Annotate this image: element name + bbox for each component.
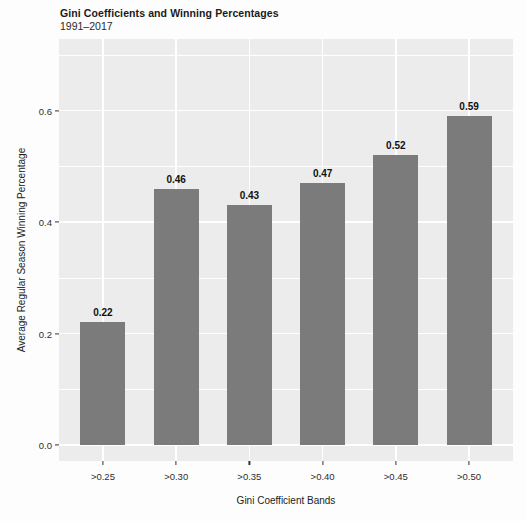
- y-axis-tick-mark: [55, 221, 59, 222]
- x-axis-tick-mark: [176, 461, 177, 465]
- bar-value-label: 0.22: [80, 307, 125, 318]
- gini-bar-chart-figure: Gini Coefficients and Winning Percentage…: [0, 0, 526, 521]
- x-axis-tick-label: >0.35: [237, 471, 261, 482]
- x-axis-tick-label: >0.45: [384, 471, 408, 482]
- y-axis-tick-label: 0.0: [22, 440, 52, 451]
- chart-subtitle: 1991–2017: [60, 20, 113, 32]
- bar: [373, 155, 418, 445]
- y-axis-tick-label: 0.4: [22, 217, 52, 228]
- y-axis-title: Average Regular Season Winning Percentag…: [16, 148, 27, 352]
- x-axis-tick-label: >0.25: [91, 471, 115, 482]
- bar-value-label: 0.59: [447, 101, 492, 112]
- x-axis-tick-label: >0.30: [164, 471, 188, 482]
- bar: [154, 189, 199, 445]
- bar-value-label: 0.46: [154, 174, 199, 185]
- bar: [80, 322, 125, 445]
- y-axis-tick-mark: [55, 110, 59, 111]
- minor-gridline-horizontal: [59, 389, 513, 390]
- x-axis-title: Gini Coefficient Bands: [59, 495, 513, 506]
- minor-gridline-horizontal: [59, 55, 513, 56]
- bar-value-label: 0.43: [227, 190, 272, 201]
- major-gridline-horizontal: [59, 333, 513, 334]
- chart-title: Gini Coefficients and Winning Percentage…: [60, 7, 279, 19]
- bar-value-label: 0.47: [300, 168, 345, 179]
- x-axis-tick-mark: [468, 461, 469, 465]
- x-axis-tick-mark: [322, 461, 323, 465]
- x-axis-tick-mark: [249, 461, 250, 465]
- x-axis-tick-label: >0.40: [311, 471, 335, 482]
- y-axis-tick-mark: [55, 333, 59, 334]
- bar-value-label: 0.52: [373, 140, 418, 151]
- major-gridline-horizontal: [59, 444, 513, 445]
- major-gridline-horizontal: [59, 110, 513, 111]
- y-axis-tick-label: 0.2: [22, 328, 52, 339]
- bar: [227, 205, 272, 445]
- bar: [447, 116, 492, 445]
- y-axis-tick-label: 0.6: [22, 105, 52, 116]
- y-axis-tick-mark: [55, 444, 59, 445]
- x-axis-tick-mark: [395, 461, 396, 465]
- bar: [300, 183, 345, 445]
- x-axis-tick-mark: [102, 461, 103, 465]
- plot-panel: 0.220.460.430.470.520.59: [59, 39, 513, 461]
- x-axis-tick-label: >0.50: [457, 471, 481, 482]
- minor-gridline-horizontal: [59, 278, 513, 279]
- minor-gridline-horizontal: [59, 166, 513, 167]
- major-gridline-horizontal: [59, 221, 513, 222]
